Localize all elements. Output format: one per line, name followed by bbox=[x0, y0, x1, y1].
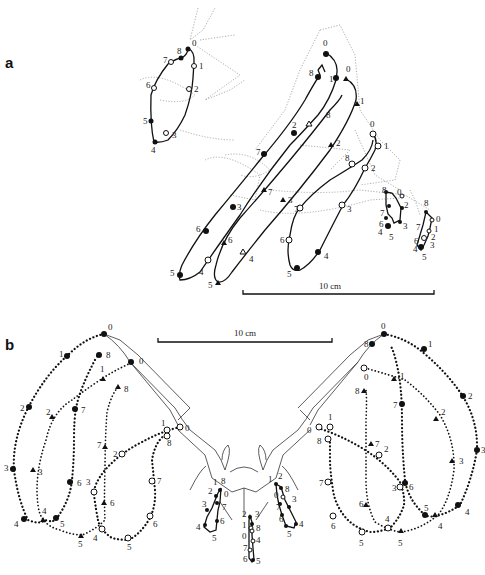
svg-text:7: 7 bbox=[393, 400, 398, 410]
svg-text:7: 7 bbox=[81, 405, 86, 415]
svg-text:4: 4 bbox=[14, 519, 19, 529]
svg-text:4: 4 bbox=[199, 267, 204, 277]
svg-text:3: 3 bbox=[202, 499, 207, 509]
svg-text:1: 1 bbox=[242, 520, 247, 530]
svg-text:8: 8 bbox=[285, 484, 290, 494]
svg-text:1: 1 bbox=[100, 364, 105, 374]
svg-text:7: 7 bbox=[375, 439, 380, 449]
svg-text:6: 6 bbox=[331, 521, 336, 531]
svg-text:4: 4 bbox=[299, 519, 304, 529]
svg-text:7: 7 bbox=[163, 55, 168, 65]
svg-text:2: 2 bbox=[404, 200, 409, 210]
panel-a-label: a bbox=[5, 54, 14, 71]
svg-text:6: 6 bbox=[280, 235, 285, 245]
svg-text:4: 4 bbox=[256, 535, 261, 545]
svg-text:3: 3 bbox=[38, 467, 43, 477]
svg-text:0: 0 bbox=[108, 322, 113, 332]
svg-text:3: 3 bbox=[86, 477, 91, 487]
svg-text:7: 7 bbox=[268, 187, 273, 197]
panel-a-scale-label: 10 cm bbox=[319, 281, 341, 291]
svg-text:6: 6 bbox=[220, 516, 225, 526]
svg-text:8: 8 bbox=[309, 68, 314, 78]
svg-text:3: 3 bbox=[237, 202, 242, 212]
svg-text:0: 0 bbox=[397, 187, 402, 197]
svg-text:6: 6 bbox=[146, 80, 151, 90]
svg-text:8: 8 bbox=[424, 198, 429, 208]
panel-a-scale-bar: 10 cm bbox=[243, 281, 434, 294]
panel-b-center-trajectory: 2 3 1 8 0 4 7 6 5 bbox=[242, 509, 261, 566]
panel-b-left-wingtip-trajectory: 0 1 2 3 4 5 6 7 8 bbox=[4, 322, 113, 529]
svg-text:1: 1 bbox=[213, 477, 218, 487]
svg-text:0: 0 bbox=[323, 38, 328, 48]
panel-a-body-outlines bbox=[140, 8, 430, 215]
svg-text:8: 8 bbox=[355, 386, 360, 396]
svg-text:0: 0 bbox=[346, 64, 351, 74]
svg-text:2: 2 bbox=[384, 444, 389, 454]
panel-b-right-wingtip-trajectory: 0 1 2 3 4 5 6 7 8 bbox=[364, 321, 485, 518]
svg-text:5: 5 bbox=[359, 538, 364, 548]
svg-text:5: 5 bbox=[127, 542, 132, 552]
svg-text:2: 2 bbox=[441, 407, 446, 417]
svg-text:6: 6 bbox=[77, 478, 82, 488]
svg-text:6: 6 bbox=[414, 236, 419, 246]
svg-text:0: 0 bbox=[185, 423, 190, 433]
panel-b: b 10 cm bbox=[4, 321, 485, 566]
svg-text:1: 1 bbox=[161, 418, 166, 428]
svg-text:2: 2 bbox=[336, 138, 341, 148]
svg-text:0: 0 bbox=[242, 531, 247, 541]
svg-text:5: 5 bbox=[60, 519, 65, 529]
svg-text:5: 5 bbox=[256, 556, 261, 566]
svg-text:5: 5 bbox=[389, 232, 394, 242]
svg-text:2: 2 bbox=[208, 486, 213, 496]
svg-text:5: 5 bbox=[287, 529, 292, 539]
svg-text:2: 2 bbox=[113, 449, 118, 459]
svg-text:3: 3 bbox=[4, 463, 9, 473]
svg-text:3: 3 bbox=[459, 456, 464, 466]
svg-text:1: 1 bbox=[384, 141, 389, 151]
svg-text:1: 1 bbox=[400, 371, 405, 381]
panel-a: a bbox=[5, 8, 441, 294]
svg-text:5: 5 bbox=[398, 538, 403, 548]
svg-text:8: 8 bbox=[177, 46, 182, 56]
svg-text:8: 8 bbox=[106, 350, 111, 360]
svg-text:3: 3 bbox=[288, 195, 293, 205]
svg-text:5: 5 bbox=[212, 533, 217, 543]
svg-text:8: 8 bbox=[124, 384, 129, 394]
panel-a-trajectory-small-loop: 0 1 2 3 4 5 6 7 8 bbox=[143, 38, 204, 155]
svg-text:0: 0 bbox=[274, 490, 279, 500]
svg-text:0: 0 bbox=[436, 214, 441, 224]
svg-text:5: 5 bbox=[170, 268, 175, 278]
svg-text:8: 8 bbox=[167, 438, 172, 448]
svg-text:3: 3 bbox=[292, 494, 297, 504]
panel-b-scale-bar: 10 cm bbox=[158, 328, 332, 342]
svg-text:4: 4 bbox=[196, 522, 201, 532]
panel-b-label: b bbox=[5, 336, 14, 353]
svg-text:2: 2 bbox=[468, 391, 473, 401]
svg-text:6: 6 bbox=[279, 514, 284, 524]
svg-text:7: 7 bbox=[256, 147, 261, 157]
svg-text:8: 8 bbox=[345, 153, 350, 163]
svg-text:4: 4 bbox=[438, 521, 443, 531]
svg-text:5: 5 bbox=[78, 539, 83, 549]
svg-text:2: 2 bbox=[46, 407, 51, 417]
svg-text:5: 5 bbox=[208, 280, 213, 290]
svg-text:3: 3 bbox=[403, 221, 408, 231]
svg-text:1: 1 bbox=[328, 412, 333, 422]
panel-b-left-wrist-trajectory: 0 1 2 3 4 5 6 7 8 bbox=[86, 418, 190, 552]
svg-text:5: 5 bbox=[287, 269, 292, 279]
svg-text:4: 4 bbox=[93, 533, 98, 543]
svg-text:3: 3 bbox=[430, 240, 435, 250]
svg-text:2: 2 bbox=[242, 509, 247, 519]
svg-text:2: 2 bbox=[20, 403, 25, 413]
svg-text:6: 6 bbox=[196, 224, 201, 234]
svg-text:7: 7 bbox=[157, 476, 162, 486]
svg-text:2: 2 bbox=[194, 84, 199, 94]
svg-text:7: 7 bbox=[416, 222, 421, 232]
svg-text:6: 6 bbox=[153, 519, 158, 529]
svg-text:6: 6 bbox=[243, 554, 248, 564]
svg-text:8: 8 bbox=[326, 110, 331, 120]
svg-text:2: 2 bbox=[278, 471, 283, 481]
svg-text:4: 4 bbox=[465, 507, 470, 517]
svg-text:5: 5 bbox=[424, 503, 429, 513]
panel-b-right-wrist-trajectory: 0 1 2 3 4 5 6 7 8 bbox=[307, 412, 404, 548]
